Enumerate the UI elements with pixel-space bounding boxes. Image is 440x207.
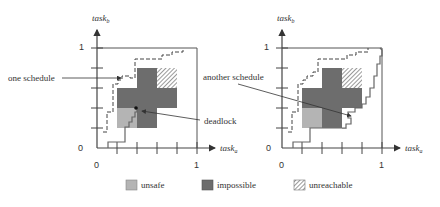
legend-item-unreachable: unreachable — [294, 180, 352, 190]
x-axis-label: taska — [405, 143, 423, 154]
deadlock-label: deadlock — [204, 116, 237, 126]
x-tick-label-1: 1 — [194, 160, 199, 170]
x-axis-label: taska — [220, 143, 238, 154]
x-tick-label-1: 1 — [379, 160, 384, 170]
unreachable-region — [342, 68, 362, 88]
legend-item-impossible: impossible — [202, 180, 256, 190]
unsafe-region — [302, 108, 322, 128]
another-schedule-label: another schedule — [203, 72, 264, 82]
unreachable-swatch — [294, 180, 305, 190]
legend-label-unsafe: unsafe — [141, 180, 165, 190]
y-tick-label-1: 1 — [79, 42, 84, 52]
unsafe-region — [117, 108, 137, 128]
y-axis-label: taskb — [92, 13, 110, 24]
schedule-diagrams: taskb taska 1 0 0 1 one schedule deadloc… — [0, 0, 440, 207]
legend-label-impossible: impossible — [217, 180, 256, 190]
legend: unsafe impossible unreachable — [126, 180, 352, 190]
unreachable-region — [157, 68, 177, 88]
y-origin-label: 0 — [78, 143, 83, 153]
one-schedule-label: one schedule — [8, 73, 55, 83]
legend-item-unsafe: unsafe — [126, 180, 165, 190]
unsafe-swatch — [126, 180, 137, 190]
y-tick-label-1: 1 — [264, 42, 269, 52]
x-origin-label: 0 — [279, 160, 284, 170]
x-origin-label: 0 — [94, 160, 99, 170]
y-origin-label: 0 — [266, 143, 271, 153]
left-diagram: taskb taska 1 0 0 1 one schedule deadloc… — [8, 13, 238, 170]
deadlock-point — [134, 106, 138, 110]
right-diagram: taskb taska 1 0 0 1 another schedule — [203, 13, 423, 170]
y-axis-label: taskb — [277, 13, 295, 24]
safe-gap — [342, 108, 362, 128]
legend-label-unreachable: unreachable — [309, 180, 352, 190]
impossible-swatch — [202, 180, 213, 190]
